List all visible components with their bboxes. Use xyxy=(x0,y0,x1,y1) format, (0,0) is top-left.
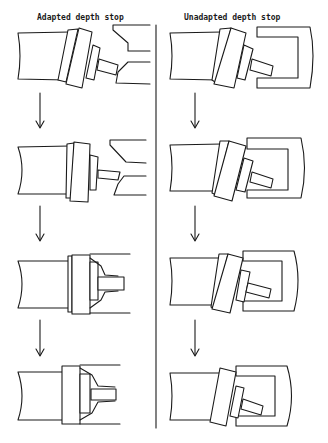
unadapted-step-4 xyxy=(170,366,292,426)
unadapted-step-1 xyxy=(170,27,313,88)
depth-stop-diagram: Adapted depth stop Unadapted depth stop xyxy=(0,0,328,443)
unadapted-title: Unadapted depth stop xyxy=(184,13,281,22)
adapted-step-2 xyxy=(18,140,146,202)
adapted-step-4 xyxy=(18,365,120,424)
adapted-title: Adapted depth stop xyxy=(37,13,124,22)
unadapted-step-3 xyxy=(170,251,298,313)
adapted-step-1 xyxy=(18,25,150,88)
unadapted-step-2 xyxy=(170,138,305,201)
adapted-step-3 xyxy=(18,254,130,314)
